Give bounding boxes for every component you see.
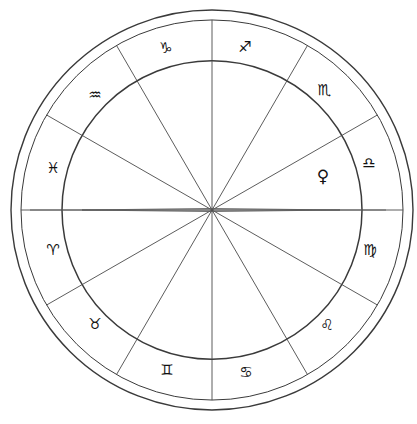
sign-glyph-virgo: ♍ xyxy=(363,241,376,259)
house-cusp-spoke xyxy=(82,210,212,285)
house-cusp-spoke xyxy=(212,210,342,285)
house-cusp-spoke xyxy=(212,210,287,339)
sign-glyph-leo: ♌ xyxy=(320,316,333,334)
house-cusp-spoke xyxy=(137,210,212,339)
sign-ring-divider xyxy=(47,285,83,305)
sign-ring-divider xyxy=(287,45,308,80)
house-cusp-spoke xyxy=(82,135,212,210)
sign-ring-divider xyxy=(342,115,378,135)
planet-glyph-venus: ♀ xyxy=(317,166,329,186)
sign-glyph-cancer: ♋ xyxy=(239,363,252,381)
sign-glyph-libra: ♎ xyxy=(362,154,375,172)
sign-glyph-capricorn: ♑ xyxy=(159,39,172,57)
sign-glyph-sagittarius: ♐ xyxy=(238,38,251,56)
astrology-chart-wheel: ♐♑♒♓♈♉♊♋♌♍♎♏ ♀ xyxy=(0,0,417,424)
sign-ring-divider xyxy=(47,115,83,135)
house-cusp-spoke xyxy=(137,81,212,210)
sign-ring-divider xyxy=(287,339,308,374)
zodiac-wheel-svg: ♐♑♒♓♈♉♊♋♌♍♎♏ ♀ xyxy=(0,0,417,424)
sign-glyph-scorpio: ♏ xyxy=(317,81,331,99)
sign-ring-divider xyxy=(117,339,138,374)
sign-glyph-gemini: ♊ xyxy=(160,361,173,379)
sign-glyph-aries: ♈ xyxy=(46,241,59,259)
sign-glyph-pisces: ♓ xyxy=(46,159,59,177)
sign-ring-divider xyxy=(117,45,138,80)
planet-glyphs-group: ♀ xyxy=(317,166,329,186)
ascendant-descendant-axis-group xyxy=(30,209,386,212)
sign-glyph-aquarius: ♒ xyxy=(88,86,101,104)
sign-ring-divider xyxy=(342,285,378,305)
sign-glyph-taurus: ♉ xyxy=(88,315,101,333)
house-cusp-spoke xyxy=(212,81,287,210)
